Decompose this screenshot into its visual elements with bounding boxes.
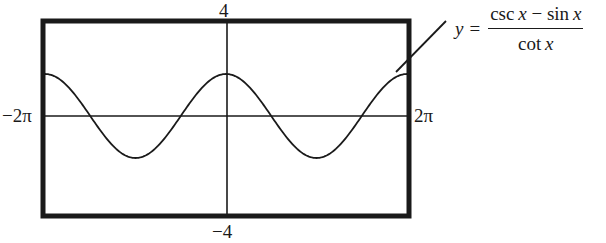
y-max-label: 4 bbox=[219, 1, 229, 20]
fraction-denominator: cot x bbox=[518, 29, 553, 55]
equals-sign: = bbox=[469, 18, 480, 40]
equation-pointer-line bbox=[396, 21, 446, 72]
equation-lhs: y bbox=[455, 18, 463, 40]
x-min-label: −2π bbox=[2, 106, 32, 125]
y-min-label: −4 bbox=[212, 222, 232, 241]
csc-func: csc bbox=[490, 3, 514, 24]
cot-func: cot bbox=[518, 33, 541, 54]
equation-label: y = csc x − sin x cot x bbox=[455, 3, 583, 55]
minus-op: − bbox=[527, 3, 547, 24]
fraction: csc x − sin x cot x bbox=[488, 3, 583, 55]
x-max-label: 2π bbox=[414, 106, 433, 125]
sin-func: sin bbox=[547, 3, 569, 24]
fraction-numerator: csc x − sin x bbox=[488, 3, 583, 29]
graph-frame bbox=[43, 21, 409, 216]
var-x: x bbox=[518, 3, 526, 24]
var-x: x bbox=[545, 33, 553, 54]
var-x: x bbox=[573, 3, 581, 24]
